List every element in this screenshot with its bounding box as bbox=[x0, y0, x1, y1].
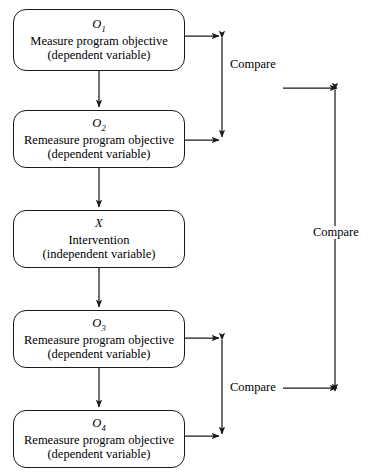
branch-arrow-group bbox=[185, 36, 219, 436]
node-x[interactable]: X Intervention (independent variable) bbox=[13, 210, 185, 268]
node-o2-line2: (dependent variable) bbox=[47, 147, 150, 162]
node-o2[interactable]: O2 Remeasure program objective (dependen… bbox=[13, 110, 185, 168]
node-o4-line2: (dependent variable) bbox=[47, 447, 150, 462]
node-o3[interactable]: O3 Remeasure program objective (dependen… bbox=[13, 310, 185, 368]
node-x-line1: Intervention bbox=[68, 233, 129, 248]
node-o4-symbol: O4 bbox=[92, 416, 106, 433]
time-series-design-diagram: O1 Measure program objective (dependent … bbox=[0, 0, 369, 475]
node-o3-symbol: O3 bbox=[92, 316, 106, 333]
node-o1-line1: Measure program objective bbox=[30, 34, 167, 49]
compare-label-bottom: Compare bbox=[228, 381, 278, 394]
compare-label-outer: Compare bbox=[311, 226, 361, 239]
node-o1-line2: (dependent variable) bbox=[47, 48, 150, 63]
node-x-symbol: X bbox=[95, 216, 103, 233]
node-o2-symbol: O2 bbox=[92, 116, 106, 133]
node-o2-line1: Remeasure program objective bbox=[24, 133, 174, 148]
node-o1[interactable]: O1 Measure program objective (dependent … bbox=[13, 9, 185, 71]
node-o4-line1: Remeasure program objective bbox=[24, 433, 174, 448]
compare-label-top: Compare bbox=[228, 58, 278, 71]
node-o4[interactable]: O4 Remeasure program objective (dependen… bbox=[13, 410, 185, 468]
node-o3-line1: Remeasure program objective bbox=[24, 333, 174, 348]
node-o3-line2: (dependent variable) bbox=[47, 347, 150, 362]
node-o1-symbol: O1 bbox=[92, 17, 106, 34]
node-x-line2: (independent variable) bbox=[43, 247, 156, 262]
